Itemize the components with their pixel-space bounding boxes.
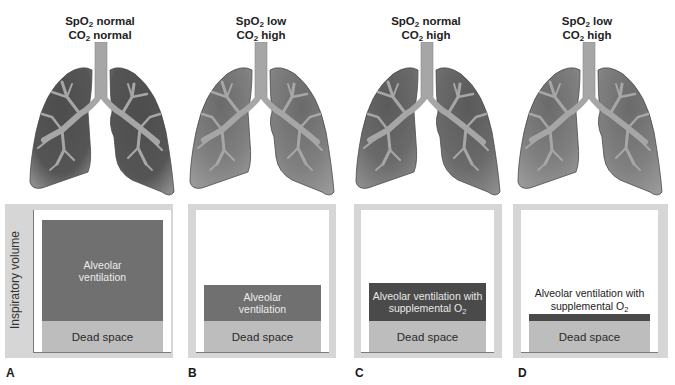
panel-b-title: SpO2 low CO2 high <box>191 14 331 42</box>
spo2-status: low <box>590 15 612 27</box>
chart-area: Alveolar ventilation withsupplemental O2… <box>361 210 494 353</box>
panel-letter-b: B <box>188 366 197 380</box>
dead-space-label: Dead space <box>232 331 293 343</box>
alveolar-ventilation-supplemental-o2-block: Alveolar ventilation withsupplemental O2 <box>369 283 486 321</box>
panel-c-title: SpO2 normal CO2 high <box>356 14 496 42</box>
lungs-illustration-light <box>510 42 670 202</box>
panel-a-title: SpO2 normal CO2 normal <box>30 14 170 42</box>
spo2-status: low <box>264 15 286 27</box>
co2-status: high <box>584 29 611 41</box>
spo2-label: SpO <box>65 15 89 27</box>
y-axis-label: Inspiratory volume <box>2 210 28 350</box>
co2-status: high <box>423 29 450 41</box>
spo2-status: normal <box>419 15 461 27</box>
alveolar-ventilation-label: Alveolar ventilation with supplemental O… <box>529 287 650 313</box>
alveolar-ventilation-supplemental-o2-block <box>529 314 650 321</box>
volume-stack: Alveolarventilation Dead space <box>42 215 163 352</box>
co2-label: CO <box>236 29 253 41</box>
ventilation-chart-frame: Alveolarventilation Dead space <box>5 204 173 358</box>
alveolar-label-line1: Alveolar <box>239 291 286 303</box>
spo2-label: SpO <box>391 15 415 27</box>
panel-d-title: SpO2 low CO2 high <box>517 14 657 42</box>
dead-space-label: Dead space <box>559 331 620 343</box>
lungs-illustration-medium <box>348 42 508 202</box>
chart-area: Alveolar ventilation with supplemental O… <box>521 210 658 353</box>
panel-letter-c: C <box>355 366 364 380</box>
alveolar-label-line2: supplemental O <box>389 302 463 314</box>
y-axis-label-text: Inspiratory volume <box>8 231 22 329</box>
co2-status: normal <box>90 29 132 41</box>
panel-letter-d: D <box>518 366 527 380</box>
chart-area: Alveolarventilation Dead space <box>196 210 329 353</box>
alveolar-label-line1: Alveolar ventilation with <box>373 290 483 302</box>
lungs-illustration-light <box>182 42 342 202</box>
co2-label: CO <box>401 29 418 41</box>
co2-status: high <box>258 29 285 41</box>
dead-space-block: Dead space <box>204 321 321 352</box>
volume-stack: Alveolar ventilation with supplemental O… <box>529 215 650 352</box>
dead-space-block: Dead space <box>369 321 486 352</box>
alveolar-ventilation-block: Alveolarventilation <box>42 220 163 321</box>
co2-label: CO <box>562 29 579 41</box>
panel-letter-a: A <box>6 366 15 380</box>
spo2-label: SpO <box>236 15 260 27</box>
subscript: 2 <box>462 307 466 316</box>
volume-stack: Alveolar ventilation withsupplemental O2… <box>369 215 486 352</box>
subscript: 2 <box>624 305 628 314</box>
alveolar-label-line2: ventilation <box>239 303 286 315</box>
lungs-illustration-dark <box>22 42 182 202</box>
alveolar-label-line2: ventilation <box>79 271 126 283</box>
dead-space-block: Dead space <box>529 321 650 352</box>
alveolar-label-line1: Alveolar ventilation with <box>529 287 650 300</box>
alveolar-label-line1: Alveolar <box>79 259 126 271</box>
alveolar-label-line2: supplemental O <box>551 300 625 312</box>
ventilation-chart-frame: Alveolar ventilation with supplemental O… <box>513 204 668 358</box>
dead-space-label: Dead space <box>72 331 133 343</box>
co2-label: CO <box>68 29 85 41</box>
volume-stack: Alveolarventilation Dead space <box>204 215 321 352</box>
chart-area: Alveolarventilation Dead space <box>33 210 171 353</box>
ventilation-chart-frame: Alveolarventilation Dead space <box>188 204 336 358</box>
dead-space-block: Dead space <box>42 321 163 352</box>
spo2-status: normal <box>93 15 135 27</box>
alveolar-ventilation-block: Alveolarventilation <box>204 285 321 321</box>
spo2-label: SpO <box>562 15 586 27</box>
dead-space-label: Dead space <box>397 331 458 343</box>
ventilation-chart-frame: Alveolar ventilation withsupplemental O2… <box>354 204 502 358</box>
